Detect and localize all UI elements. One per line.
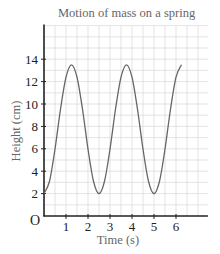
axes — [44, 25, 208, 217]
x-axis-label: Time (s) — [88, 233, 148, 248]
x-tick-label: 1 — [63, 219, 70, 234]
data-line-height — [44, 65, 182, 194]
x-tick-label: 5 — [151, 219, 158, 234]
origin-label: O — [30, 213, 40, 229]
y-axis-label: Height (cm) — [9, 101, 24, 162]
x-tick-label: 4 — [129, 219, 136, 234]
x-tick-label: 6 — [173, 219, 180, 234]
y-tick-label: 12 — [25, 74, 38, 89]
grid-lines — [44, 26, 208, 216]
y-tick-label: 6 — [32, 141, 39, 156]
x-tick-label: 3 — [107, 219, 114, 234]
y-tick-label: 8 — [32, 119, 39, 134]
y-tick-label: 14 — [25, 52, 39, 67]
y-tick-label: 4 — [32, 164, 39, 179]
x-tick-label: 2 — [85, 219, 92, 234]
tick-labels: 1234562468101214 — [25, 52, 180, 234]
tick-marks — [41, 59, 176, 219]
y-tick-label: 10 — [25, 97, 38, 112]
chart-title: Motion of mass on a spring — [58, 6, 192, 21]
y-tick-label: 2 — [32, 186, 39, 201]
